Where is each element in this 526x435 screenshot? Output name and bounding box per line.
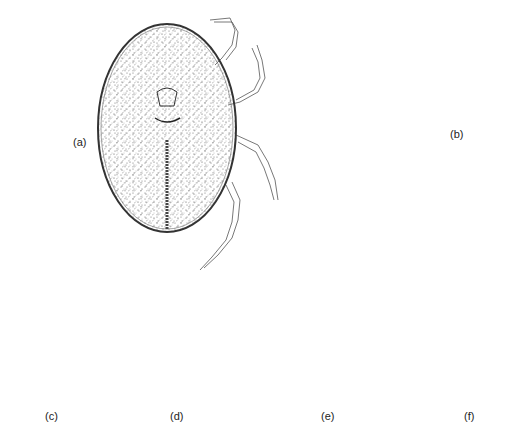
panel-label-a: (a)	[73, 136, 86, 148]
panel-label-d: (d)	[170, 410, 183, 422]
panel-label-e: (e)	[321, 410, 334, 422]
figure: (a) (b) (c) (d) (e) (f)	[0, 0, 526, 435]
panel-label-b: (b)	[450, 128, 463, 140]
panel-label-f: (f)	[464, 410, 474, 422]
illustration-canvas	[0, 0, 526, 435]
panel-a-dorsal-mite	[98, 18, 278, 270]
panel-label-c: (c)	[45, 410, 58, 422]
